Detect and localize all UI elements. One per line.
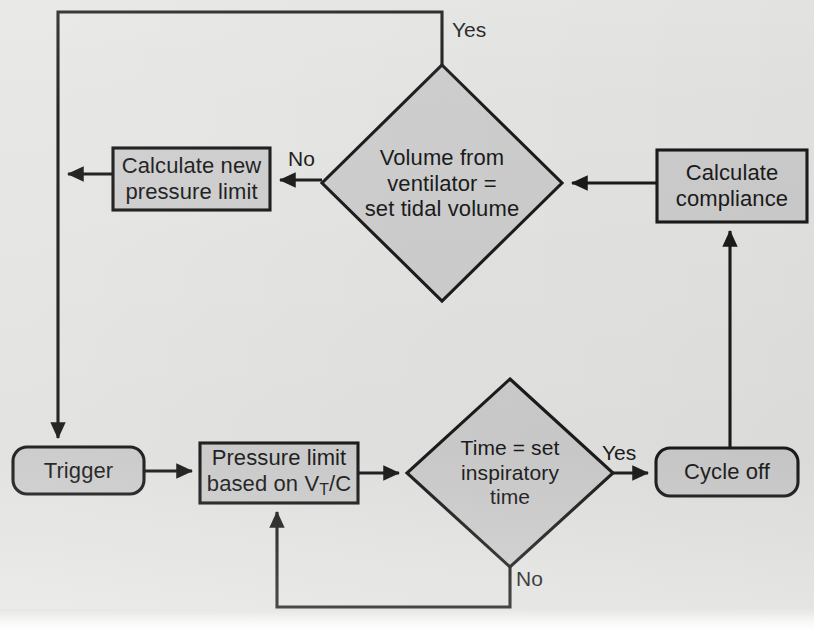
node-calculate-compliance [657,150,807,222]
flowchart-canvas [0,0,814,631]
node-pressure-limit [200,443,358,503]
node-cycle-off [656,448,798,496]
node-calculate-new-pressure-limit [113,148,270,210]
flowchart-page: Trigger Pressure limitbased on VT/C Time… [0,0,814,631]
node-volume-check [322,65,562,301]
node-time-check [407,379,613,567]
node-trigger [13,447,144,494]
